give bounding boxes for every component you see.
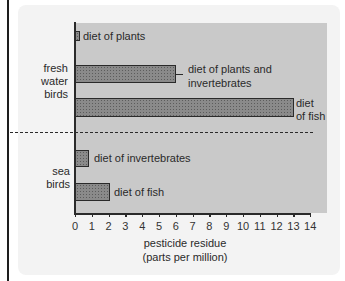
x-tick-label: 14 bbox=[304, 220, 316, 232]
x-tick-label: 10 bbox=[237, 220, 249, 232]
x-tick bbox=[310, 213, 311, 217]
page-border bbox=[7, 0, 9, 281]
x-tick-label: 12 bbox=[270, 220, 282, 232]
bar-fresh-fish bbox=[75, 98, 294, 117]
x-tick-label: 0 bbox=[72, 220, 78, 232]
x-tick-label: 6 bbox=[173, 220, 179, 232]
x-tick bbox=[243, 213, 244, 217]
bar-sea-fish bbox=[75, 183, 110, 201]
bar-fresh-plants bbox=[75, 31, 80, 41]
bar-label-fresh-plants-inverts-line1: diet of plants and bbox=[188, 63, 272, 76]
group-divider-dashed-line bbox=[10, 132, 313, 133]
bar-sea-inverts bbox=[75, 150, 89, 167]
x-tick bbox=[226, 213, 227, 217]
group-label-line: birds bbox=[18, 88, 68, 101]
bar-fresh-plants-inverts bbox=[75, 65, 176, 83]
x-tick-label: 7 bbox=[190, 220, 196, 232]
bar-label-fresh-fish-line2: of fish bbox=[296, 110, 325, 123]
group-label-line: water bbox=[18, 75, 68, 88]
bar-label-fresh-fish-line1: diet bbox=[296, 97, 314, 110]
bar-label-sea-inverts: diet of invertebrates bbox=[94, 152, 191, 165]
x-tick bbox=[209, 213, 210, 217]
x-tick bbox=[75, 213, 76, 217]
x-tick bbox=[109, 213, 110, 217]
x-tick bbox=[142, 213, 143, 217]
x-tick-label: 3 bbox=[122, 220, 128, 232]
x-tick bbox=[277, 213, 278, 217]
x-tick-label: 8 bbox=[206, 220, 212, 232]
x-tick-label: 2 bbox=[106, 220, 112, 232]
bar-label-fresh-plants: diet of plants bbox=[83, 30, 145, 43]
group-label-line: fresh bbox=[18, 62, 68, 75]
x-tick-label: 1 bbox=[89, 220, 95, 232]
x-tick bbox=[260, 213, 261, 217]
plot-area bbox=[75, 23, 327, 213]
x-tick-label: 5 bbox=[156, 220, 162, 232]
x-tick-label: 4 bbox=[139, 220, 145, 232]
x-axis-title: pesticide residue (parts per million) bbox=[110, 236, 260, 264]
x-tick bbox=[92, 213, 93, 217]
x-tick bbox=[159, 213, 160, 217]
group-label-line: sea bbox=[20, 165, 70, 178]
x-tick bbox=[125, 213, 126, 217]
leader-line bbox=[176, 74, 183, 75]
x-tick-label: 11 bbox=[254, 220, 265, 232]
y-axis bbox=[74, 22, 76, 214]
x-tick bbox=[293, 213, 294, 217]
group-label-line: birds bbox=[20, 178, 70, 191]
x-axis-title-line1: pesticide residue bbox=[110, 236, 260, 250]
group-label-fresh-water-birds: fresh water birds bbox=[18, 62, 68, 101]
x-tick-label: 13 bbox=[287, 220, 299, 232]
x-axis-title-line2: (parts per million) bbox=[110, 250, 260, 264]
x-tick-label: 9 bbox=[223, 220, 229, 232]
bar-label-fresh-plants-inverts-line2: invertebrates bbox=[188, 77, 252, 90]
group-label-sea-birds: sea birds bbox=[20, 165, 70, 191]
x-tick bbox=[176, 213, 177, 217]
x-tick bbox=[193, 213, 194, 217]
bar-label-sea-fish: diet of fish bbox=[114, 186, 164, 199]
